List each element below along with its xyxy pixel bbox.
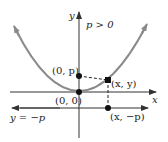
directrix-point-label: (x, −p)	[110, 111, 145, 122]
y-axis-label: y	[68, 10, 75, 21]
parabola-arrow-left	[14, 26, 19, 36]
parabola-diagram: y x p > 0 (0, p) (0, 0) (x, y) (x, −p) y…	[0, 0, 168, 142]
curve-point-label: (x, y)	[111, 78, 137, 89]
condition-label: p > 0	[86, 19, 114, 30]
parabola-arrow-right	[142, 24, 147, 33]
x-axis-label: x	[152, 94, 158, 105]
directrix-label: y = −p	[9, 112, 46, 123]
focus-distance-dashed	[79, 76, 108, 80]
vertex-label: (0, 0)	[55, 95, 82, 106]
focus-label: (0, p)	[52, 65, 79, 76]
